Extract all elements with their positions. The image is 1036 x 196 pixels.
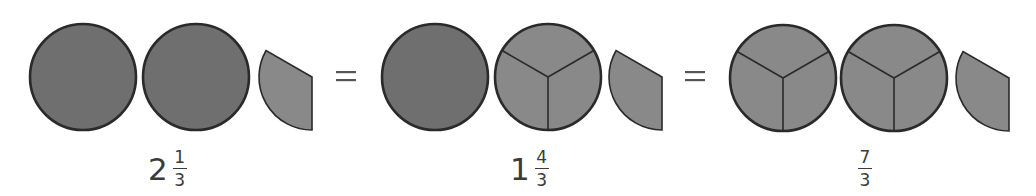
one-third-slice <box>259 51 312 131</box>
whole-circle <box>382 24 488 130</box>
circle-divided-in-thirds <box>841 25 947 131</box>
numerator: 4 <box>535 149 548 168</box>
fraction: 43 <box>535 149 549 190</box>
whole-circle <box>30 24 136 130</box>
fraction: 13 <box>173 149 187 190</box>
denominator: 3 <box>536 169 547 189</box>
fraction-label: 213 <box>148 146 187 192</box>
group-improper-7-3 <box>730 25 1009 131</box>
numerator: 7 <box>859 149 872 168</box>
fraction-label: 143 <box>510 146 549 192</box>
group-mixed-1-4-3 <box>382 24 662 130</box>
fraction: 73 <box>858 149 872 190</box>
denominator: 3 <box>174 169 185 189</box>
equals-sign <box>336 71 356 81</box>
whole-circle <box>143 24 249 130</box>
group-mixed-2-1-3 <box>30 24 312 130</box>
one-third-slice <box>956 52 1009 132</box>
whole-number: 1 <box>510 154 530 185</box>
circle-divided-in-thirds <box>730 25 836 131</box>
fraction-label: 73 <box>858 146 872 192</box>
equals-sign <box>685 71 705 81</box>
numerator: 1 <box>173 149 186 168</box>
denominator: 3 <box>860 169 871 189</box>
whole-number: 2 <box>148 154 168 185</box>
circle-divided-in-thirds <box>495 24 601 130</box>
one-third-slice <box>609 51 662 131</box>
